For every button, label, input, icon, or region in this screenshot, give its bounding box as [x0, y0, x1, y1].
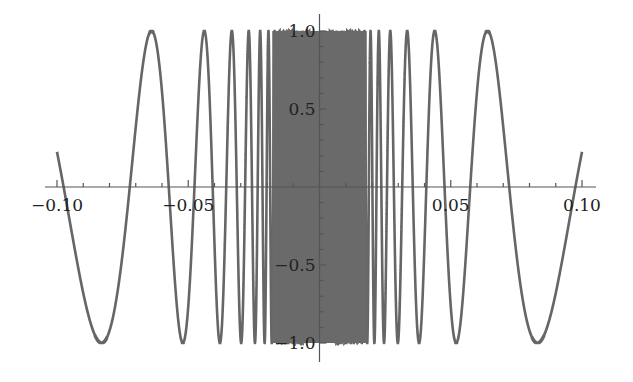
y-tick-label: −1.0 [274, 333, 315, 353]
y-tick-label: −0.5 [274, 255, 315, 275]
x-tick-label: −0.10 [31, 195, 83, 215]
x-tick-label: −0.05 [162, 195, 214, 215]
chart-container: −0.10−0.050.050.101.00.5−0.5−1.0 [0, 0, 633, 382]
x-tick-label: 0.10 [563, 195, 601, 215]
y-tick-label: 1.0 [288, 21, 315, 41]
plot-area: −0.10−0.050.050.101.00.5−0.5−1.0 [0, 0, 633, 382]
y-tick-label: 0.5 [288, 99, 315, 119]
x-tick-label: 0.05 [432, 195, 470, 215]
